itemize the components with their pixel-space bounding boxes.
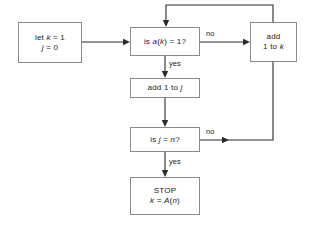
- arrowhead-init-to-decision-a: [123, 39, 130, 45]
- edge-label-yes-top: yes: [169, 60, 181, 68]
- edge-label-no-top: no: [206, 30, 214, 38]
- flowchart-canvas: let k = 1 j = 0 is a(k) = 1? add 1 to k …: [0, 0, 316, 225]
- arrowhead-decision-a-yes: [162, 71, 168, 78]
- arrowhead-loop-into-decision-a: [163, 20, 169, 27]
- stop-box[interactable]: STOP k = A(n): [130, 177, 200, 215]
- add-1-to-j-box[interactable]: add 1 to j: [130, 78, 200, 98]
- init-box[interactable]: let k = 1 j = 0: [18, 22, 82, 63]
- decision-j-equals-n[interactable]: is j = n?: [130, 127, 200, 152]
- decision-j-label: is j = n?: [150, 135, 180, 145]
- edge-label-yes-bottom: yes: [169, 158, 181, 166]
- add-j-label: add 1 to j: [148, 83, 183, 93]
- arrowhead-decision-j-yes: [162, 170, 168, 177]
- add-k-line-1: add: [267, 32, 281, 42]
- arrowhead-add-j-to-decision-j: [162, 120, 168, 127]
- add-k-line-2: 1 to k: [263, 42, 284, 52]
- edge-label-no-bottom: no: [206, 128, 214, 136]
- arrowhead-decision-j-no: [222, 137, 229, 143]
- arrowhead-decision-a-no: [243, 39, 250, 45]
- add-1-to-k-box[interactable]: add 1 to k: [250, 22, 297, 62]
- decision-a-label: is a(k) = 1?: [144, 37, 186, 47]
- stop-line-2: k = A(n): [150, 196, 180, 206]
- stop-line-1: STOP: [154, 186, 176, 196]
- edge-add-k-loop-back: [166, 5, 273, 23]
- init-line-1: let k = 1: [35, 33, 65, 43]
- decision-a-k-equals-1[interactable]: is a(k) = 1?: [130, 27, 200, 56]
- init-line-2: j = 0: [42, 43, 58, 53]
